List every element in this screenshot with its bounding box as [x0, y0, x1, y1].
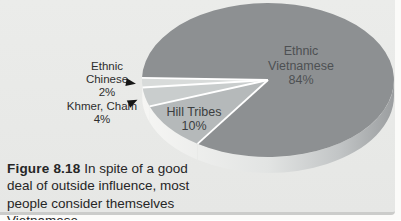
label-line: 84% [251, 73, 351, 88]
label-line: 10% [150, 119, 238, 133]
label-line: 4% [52, 113, 152, 126]
label-line: 2% [73, 86, 141, 99]
label-line: Hill Tribes [150, 105, 238, 119]
label-line: Ethnic [73, 60, 141, 73]
pointer-arrow-icon [125, 78, 136, 88]
label-hill-tribes: Hill Tribes 10% [150, 105, 238, 133]
label-line: Vietnamese [251, 59, 351, 74]
figure-panel: Ethnic Chinese 2% Khmer, Cham 4% Hill Tr… [0, 0, 401, 220]
label-line: Ethnic [251, 44, 351, 59]
figure-caption: Figure 8.18 In spite of a good deal of o… [7, 160, 217, 221]
figure-number: Figure 8.18 [7, 161, 80, 176]
label-ethnic-vietnamese: Ethnic Vietnamese 84% [251, 44, 351, 88]
